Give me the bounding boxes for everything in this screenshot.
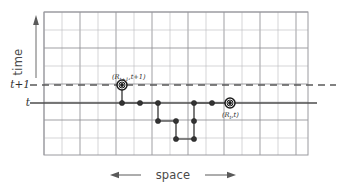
walk-node [173, 118, 178, 123]
walk-node [119, 100, 124, 105]
walk-node [209, 100, 214, 105]
figure-canvas: time t+1t space (Rt+1,t+1)(Rt,t) [0, 0, 347, 192]
walk-node [191, 136, 196, 141]
walk-node [173, 136, 178, 141]
y-axis-label: time [11, 49, 25, 76]
x-axis-label: space [156, 168, 191, 182]
marker-r-t [225, 98, 235, 108]
walk-node [155, 118, 160, 123]
marker-r-t-plus-1-label: (Rt+1,t+1) [112, 73, 146, 82]
y-tick-label-0: t+1 [10, 78, 30, 90]
marker-center-dot [228, 101, 232, 105]
walk-node [191, 118, 196, 123]
walk-node [137, 100, 142, 105]
figure-background [0, 0, 347, 192]
space-time-walk-figure: time t+1t space (Rt+1,t+1)(Rt,t) [0, 0, 347, 192]
walk-node [155, 100, 160, 105]
marker-r-t-label: (Rt,t) [222, 111, 239, 120]
walk-node [191, 100, 196, 105]
marker-center-dot [120, 83, 124, 87]
